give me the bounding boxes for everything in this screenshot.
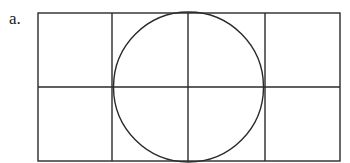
grid-circle-diagram xyxy=(0,0,350,163)
